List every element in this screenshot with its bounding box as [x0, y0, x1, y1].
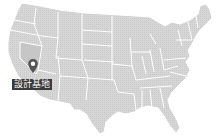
- us-map: 設計基地: [0, 0, 218, 139]
- map-pin-icon[interactable]: [27, 58, 39, 74]
- marker-label: 設計基地: [12, 79, 52, 90]
